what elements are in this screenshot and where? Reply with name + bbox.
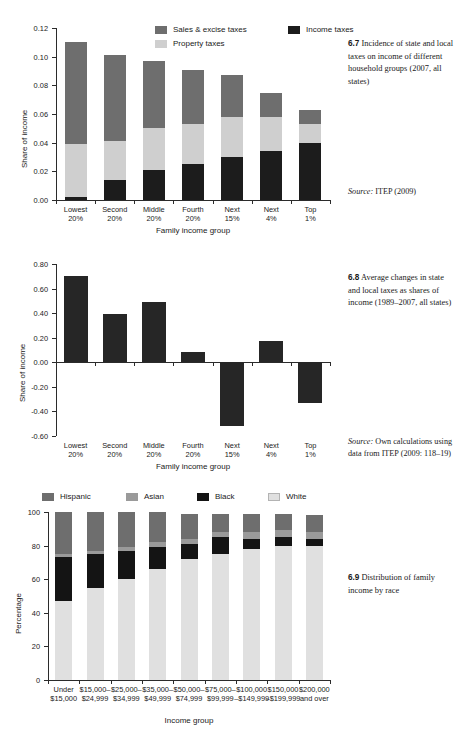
figure-caption-6-9: 6.9 Distribution of family income by rac… [348,572,456,597]
figure-source-6-8: Source: Own calculations using data from… [348,436,460,460]
bar-segment-property-taxes [260,117,282,151]
figure-caption-text-6-8: Average changes in state and local taxes… [348,273,451,307]
bar-segment-sales-excise-taxes [299,110,321,124]
bar-segment-black [212,537,229,554]
y-tick [44,646,48,647]
source-text-6-7: ITEP (2009) [373,187,416,196]
x-tick [330,680,331,684]
bar-stack[interactable] [143,28,165,200]
legend-item-asian[interactable]: Asian [126,492,164,501]
bar-segment-property-taxes [104,141,126,180]
bar-stack[interactable] [212,512,229,680]
y-tick [52,171,56,172]
x-tick [236,680,237,684]
x-tick [213,362,214,366]
y-tick-label: 0.20 [4,333,48,342]
bar[interactable] [103,314,127,362]
bar-stack[interactable] [306,512,323,680]
bar-stack[interactable] [55,512,72,680]
bar-segment-black [149,547,166,569]
bar-stack[interactable] [87,512,104,680]
y-tick-label: 0.40 [4,309,48,318]
bar-segment-sales-excise-taxes [104,55,126,141]
figure-caption-text-6-9: Distribution of family income by race [348,573,435,595]
y-tick [44,613,48,614]
bar-stack[interactable] [275,512,292,680]
x-axis-title-6-7: Family income group [56,226,330,235]
bar-segment-black [181,544,198,559]
bar-stack[interactable] [118,512,135,680]
x-tick [252,200,253,204]
bar-segment-white [243,549,260,680]
bar-segment-hispanic [181,514,198,539]
bar-stack[interactable] [182,28,204,200]
legend-swatch-hispanic [42,493,54,501]
y-tick [52,28,56,29]
bar-segment-black [306,539,323,546]
x-category-label: Top 1% [287,206,334,223]
bar[interactable] [298,362,322,403]
legend-swatch-black [197,493,209,501]
bar-segment-income-taxes [182,164,204,200]
bar[interactable] [259,341,283,362]
bar-segment-income-taxes [260,151,282,200]
bar-stack[interactable] [221,28,243,200]
bar-segment-white [275,546,292,680]
y-tick [52,338,56,339]
bar-segment-hispanic [212,514,229,532]
legend-item-white[interactable]: White [268,492,306,501]
y-tick [52,387,56,388]
bar-stack[interactable] [299,28,321,200]
legend-6-9: Hispanic Asian Black White [42,492,312,506]
figure-source-6-7: Source: ITEP (2009) [348,186,460,198]
bar-segment-asian [149,542,166,547]
bar-segment-sales-excise-taxes [143,61,165,128]
y-tick-label: 0 [0,676,40,685]
bar-segment-asian [118,547,135,550]
bar-segment-white [149,569,166,680]
legend-item-black[interactable]: Black [197,492,235,501]
y-tick [44,546,48,547]
bar-segment-sales-excise-taxes [260,93,282,117]
legend-item-hispanic[interactable]: Hispanic [42,492,91,501]
figure-number-6-8: 6.8 [348,273,359,282]
bar[interactable] [142,302,166,362]
bar-segment-white [55,601,72,680]
x-tick [205,680,206,684]
bar-stack[interactable] [181,512,198,680]
y-tick-label: -0.40 [4,407,48,416]
bar-stack[interactable] [104,28,126,200]
y-axis-line [56,264,57,436]
y-tick-label: 0.80 [4,260,48,269]
bar-stack[interactable] [260,28,282,200]
bar-stack[interactable] [65,28,87,200]
bar[interactable] [220,362,244,426]
bar-segment-black [55,557,72,601]
x-tick [291,200,292,204]
x-tick [173,200,174,204]
figure-6-8: -0.60-0.40-0.200.000.200.400.600.80Lowes… [0,250,464,482]
x-tick [79,680,80,684]
plot-area-6-8: -0.60-0.40-0.200.000.200.400.600.80Lowes… [56,264,330,436]
bar-segment-white [181,559,198,680]
bar-segment-income-taxes [104,180,126,200]
bar-segment-income-taxes [299,143,321,200]
bar-stack[interactable] [243,512,260,680]
y-tick [44,512,48,513]
y-tick [52,436,56,437]
x-tick [173,362,174,366]
legend-label-white: White [286,492,306,501]
bar-segment-white [87,588,104,680]
figure-6-7: Sales & excise taxes Income taxes Proper… [0,0,464,248]
bar-segment-hispanic [149,512,166,542]
y-tick [52,411,56,412]
x-axis-line [56,362,330,363]
bar-stack[interactable] [149,512,166,680]
x-tick [134,362,135,366]
bar[interactable] [181,352,205,362]
bar-segment-white [118,579,135,680]
bar[interactable] [64,276,88,362]
x-tick [134,200,135,204]
x-tick [48,680,49,684]
bar-segment-asian [87,551,104,554]
